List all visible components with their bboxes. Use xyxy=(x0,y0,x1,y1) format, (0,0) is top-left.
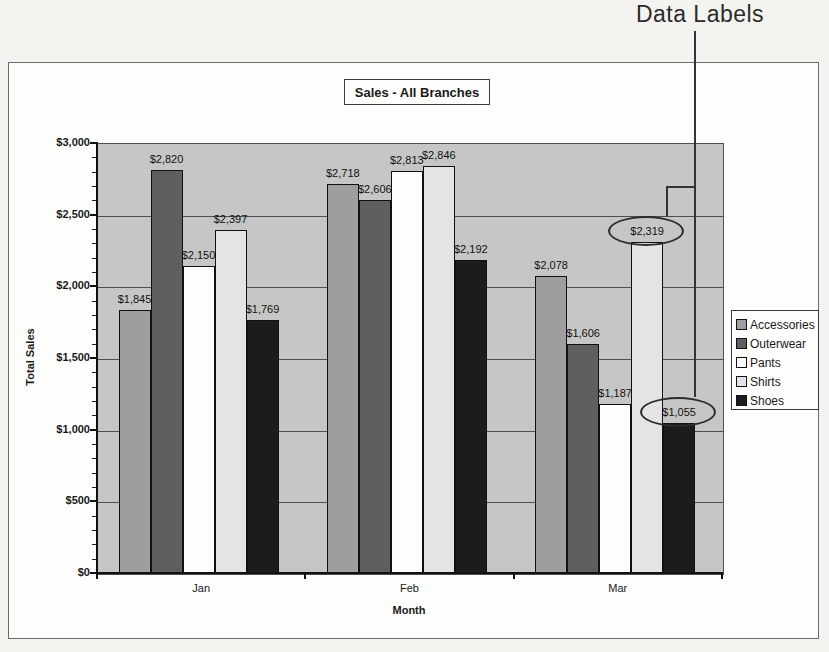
legend-item-accessories: Accessories xyxy=(736,315,818,334)
bar-shoes-feb xyxy=(455,260,487,574)
bar-shirts-feb xyxy=(423,166,455,574)
x-tick xyxy=(304,574,306,579)
y-axis-title: Total Sales xyxy=(24,319,36,395)
bar-pants-feb xyxy=(391,171,423,574)
bar-pants-mar xyxy=(599,404,631,574)
bar-pants-jan xyxy=(183,266,215,574)
x-tick-label-feb: Feb xyxy=(375,582,445,594)
legend-swatch-pants xyxy=(736,357,747,368)
x-tick-label-jan: Jan xyxy=(166,582,236,594)
x-tick xyxy=(721,574,723,579)
bar-accessories-feb xyxy=(327,184,359,574)
data-label-shoes-jan: $1,769 xyxy=(226,303,300,317)
legend-label-outerwear: Outerwear xyxy=(750,337,806,351)
data-label-shirts-feb: $2,846 xyxy=(402,149,476,163)
y-axis-line xyxy=(96,142,98,574)
chart-title: Sales - All Branches xyxy=(344,79,490,105)
bar-accessories-jan xyxy=(119,310,151,574)
legend-swatch-outerwear xyxy=(736,338,747,349)
legend-item-shoes: Shoes xyxy=(736,391,818,410)
y-tick-label-1000: $1,000 xyxy=(36,423,90,435)
data-label-outerwear-feb: $2,606 xyxy=(338,183,412,197)
bar-accessories-mar xyxy=(535,276,567,574)
data-label-shoes-feb: $2,192 xyxy=(434,243,508,257)
x-tick xyxy=(96,574,98,579)
data-label-pants-jan: $2,150 xyxy=(162,249,236,263)
data-label-accessories-jan: $1,845 xyxy=(98,293,172,307)
y-tick-label-0: $0 xyxy=(36,566,90,578)
data-label-accessories-feb: $2,718 xyxy=(306,167,380,181)
legend-swatch-shirts xyxy=(736,376,747,387)
x-tick xyxy=(513,574,515,579)
x-tick-label-mar: Mar xyxy=(583,582,653,594)
legend-swatch-shoes xyxy=(736,395,747,406)
data-label-pants-mar: $1,187 xyxy=(578,387,652,401)
annotation-leader-line xyxy=(694,31,696,397)
legend-label-pants: Pants xyxy=(750,356,781,370)
legend-label-shirts: Shirts xyxy=(750,375,781,389)
bar-shoes-jan xyxy=(247,320,279,574)
legend-item-shirts: Shirts xyxy=(736,372,818,391)
data-labels-annotation: Data Labels xyxy=(618,1,782,28)
y-tick-label-1500: $1,500 xyxy=(36,351,90,363)
legend-label-accessories: Accessories xyxy=(750,318,815,332)
data-label-accessories-mar: $2,078 xyxy=(514,259,588,273)
legend-item-outerwear: Outerwear xyxy=(736,334,818,353)
legend-label-shoes: Shoes xyxy=(750,394,784,408)
legend: AccessoriesOuterwearPantsShirtsShoes xyxy=(731,310,819,410)
bar-shoes-mar xyxy=(663,423,695,574)
y-tick-label-2500: $2,500 xyxy=(36,208,90,220)
x-axis-title: Month xyxy=(374,604,444,616)
y-tick-label-3000: $3,000 xyxy=(36,136,90,148)
bar-outerwear-feb xyxy=(359,200,391,574)
annotation-branch-line-horizontal xyxy=(666,186,696,188)
circle-around-1055 xyxy=(640,397,716,427)
data-label-outerwear-mar: $1,606 xyxy=(546,327,620,341)
annotation-branch-line-vertical xyxy=(666,186,668,216)
screenshot-stage: Data Labels Sales - All Branches $1,845$… xyxy=(0,0,829,652)
y-tick-label-2000: $2,000 xyxy=(36,279,90,291)
legend-swatch-accessories xyxy=(736,319,747,330)
bar-shirts-jan xyxy=(215,230,247,574)
data-label-outerwear-jan: $2,820 xyxy=(130,153,204,167)
legend-item-pants: Pants xyxy=(736,353,818,372)
plot-area: $1,845$2,820$2,150$2,397$1,769$2,718$2,6… xyxy=(97,143,724,575)
x-axis-line xyxy=(96,572,723,574)
circle-around-2319 xyxy=(608,216,684,246)
bar-outerwear-mar xyxy=(567,344,599,574)
data-label-shirts-jan: $2,397 xyxy=(194,213,268,227)
bar-outerwear-jan xyxy=(151,170,183,574)
y-tick-label-500: $500 xyxy=(36,494,90,506)
